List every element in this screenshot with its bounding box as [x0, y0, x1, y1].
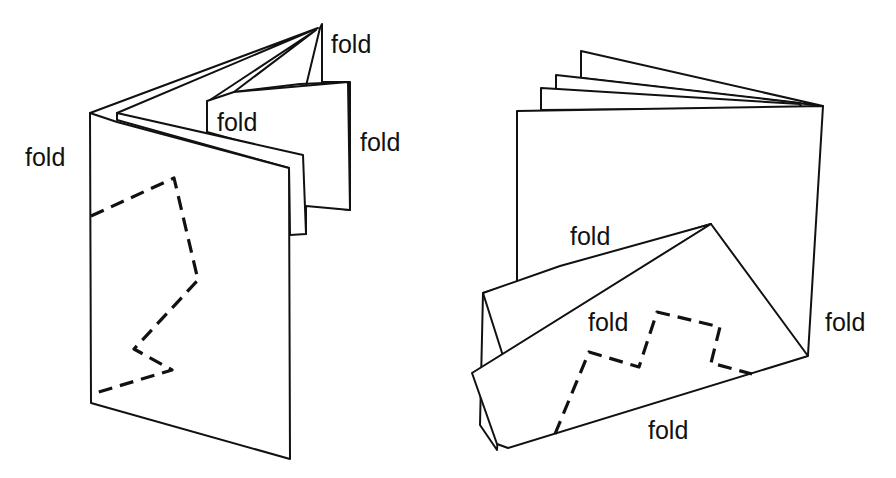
fold-label-left-inner: fold — [217, 110, 257, 135]
left-booklet-front-panel — [90, 113, 290, 459]
folding-diagram — [0, 0, 896, 478]
right-booklet — [472, 51, 823, 450]
fold-label-left-top-right: fold — [331, 32, 371, 57]
left-booklet — [90, 24, 350, 459]
fold-label-left-left: fold — [25, 145, 65, 170]
fold-label-right-upper: fold — [570, 224, 610, 249]
fold-label-right-middle: fold — [588, 310, 628, 335]
fold-label-right-bottom: fold — [648, 418, 688, 443]
fold-label-right-right: fold — [825, 310, 865, 335]
fold-label-left-right: fold — [360, 130, 400, 155]
